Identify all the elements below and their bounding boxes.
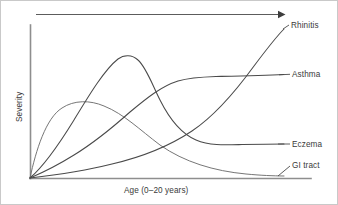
curve-gi-tract — [30, 102, 284, 178]
leader-line-asthma — [279, 74, 290, 75]
progression-arrow — [36, 11, 286, 18]
leader-line-gi-tract — [278, 166, 290, 176]
curve-rhinitis — [30, 29, 284, 178]
x-axis-title: Age (0–20 years) — [124, 186, 189, 195]
series-curves — [30, 29, 284, 178]
series-label-rhinitis: Rhinitis — [291, 21, 319, 30]
curve-asthma — [30, 75, 284, 179]
allergic-march-figure: Rhinitis Asthma Eczema GI tract Age (0–2… — [0, 0, 338, 205]
curve-eczema — [30, 56, 284, 178]
leader-line-rhinitis — [283, 25, 289, 29]
series-label-gi-tract: GI tract — [292, 161, 320, 170]
series-label-asthma: Asthma — [292, 70, 321, 79]
y-axis-title: Severity — [15, 91, 24, 122]
chart-canvas: Rhinitis Asthma Eczema GI tract Age (0–2… — [0, 0, 338, 205]
label-leader-lines — [278, 25, 290, 176]
progression-arrow-head — [278, 11, 286, 18]
axes — [30, 25, 311, 179]
series-label-eczema: Eczema — [292, 140, 323, 149]
